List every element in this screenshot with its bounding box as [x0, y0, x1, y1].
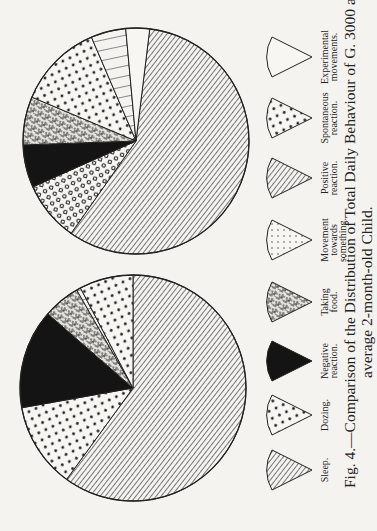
legend-item-experimental: Experimentalmovements.	[267, 30, 339, 84]
legend-swatch-icon	[267, 37, 312, 77]
legend-item-negative: Negativereaction.	[267, 341, 339, 381]
legend-label: reaction.	[328, 101, 339, 136]
legend-swatch-icon	[267, 220, 312, 260]
pie-chart-g3000	[23, 28, 249, 254]
legend-swatch-icon	[267, 341, 312, 381]
legend: Sleep.Dozing.Negativereaction.Takingfood…	[267, 30, 348, 490]
legend-swatch-icon	[267, 450, 312, 490]
legend-label: reaction.	[328, 344, 339, 379]
legend-label: reaction.	[328, 161, 339, 196]
legend-label: Sleep.	[319, 458, 330, 483]
legend-swatch-icon	[267, 158, 312, 198]
legend-swatch-icon	[267, 98, 312, 138]
legend-item-positive: Positivereaction.	[267, 158, 339, 198]
legend-item-taking-food: Takingfood.	[267, 282, 339, 322]
legend-swatch-icon	[267, 282, 312, 322]
legend-item-spontaneous: Spontaneousreaction.	[267, 92, 339, 143]
legend-swatch-icon	[267, 395, 312, 435]
caption-line-2: average 2-month-old Child.	[358, 206, 375, 378]
caption: Fig. 4.—Comparison of the Distribution o…	[341, 0, 375, 488]
legend-label: movements.	[328, 33, 339, 82]
legend-item-movement: Movementtowardssomething.	[267, 218, 348, 262]
legend-item-dozing: Dozing.	[267, 395, 330, 435]
figure: Sleep.Dozing.Negativereaction.Takingfood…	[0, 0, 377, 531]
legend-item-sleep: Sleep.	[267, 450, 330, 490]
legend-label: Dozing.	[319, 399, 330, 431]
pie-chart-average-child	[20, 275, 246, 501]
legend-label: food.	[328, 292, 339, 313]
caption-line-1: Fig. 4.—Comparison of the Distribution o…	[341, 0, 358, 488]
